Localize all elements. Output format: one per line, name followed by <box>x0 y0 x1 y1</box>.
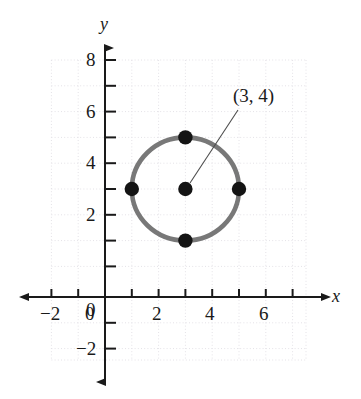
x-tick-label--2: −2 <box>40 303 60 325</box>
y-tick-label-6: 6 <box>86 101 96 123</box>
x-axis-label: x <box>332 286 340 307</box>
y-tick-label-8: 8 <box>86 49 96 71</box>
annotation-leader-line <box>190 110 238 183</box>
y-tick-label--2: −2 <box>76 338 96 360</box>
point-bottom <box>178 233 192 247</box>
center-point-annotation: (3, 4) <box>233 85 274 107</box>
plot-canvas <box>0 0 361 399</box>
y-tick-label-4: 4 <box>86 152 96 174</box>
y-tick-label-0: 0 <box>86 299 96 321</box>
x-tick-label-6: 6 <box>259 303 269 325</box>
y-axis-label: y <box>100 14 108 35</box>
point-right <box>232 182 246 196</box>
x-tick-label-2: 2 <box>152 303 162 325</box>
point-left <box>125 182 139 196</box>
x-tick-label-4: 4 <box>205 303 215 325</box>
y-axis-ticks <box>105 60 116 349</box>
y-tick-label-2: 2 <box>86 204 96 226</box>
point-top <box>178 130 192 144</box>
coordinate-plane-figure: −2 0 2 4 6 8 6 4 2 0 −2 x y (3, 4) <box>0 0 361 399</box>
x-axis-ticks <box>51 289 292 297</box>
point-center <box>178 182 192 196</box>
